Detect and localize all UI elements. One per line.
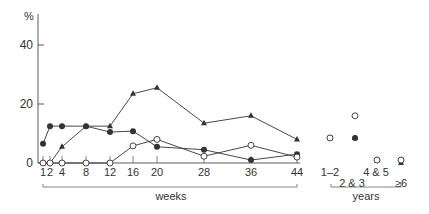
triangle-marker <box>248 112 254 118</box>
filled-circle-line <box>43 126 297 160</box>
x-tick-label: 16 <box>127 166 139 178</box>
open-circle-marker <box>294 154 300 160</box>
filled-circle-marker <box>107 129 113 135</box>
open-circle-years-marker <box>327 135 333 141</box>
filled-circle-marker <box>47 123 53 129</box>
open-circle-marker <box>107 160 113 166</box>
x-tick-label: 28 <box>198 166 210 178</box>
open-circle-marker <box>201 153 207 159</box>
years-points <box>327 113 404 165</box>
filled-circle-marker <box>201 147 207 153</box>
open-circle-marker <box>40 160 46 166</box>
x-tick-label: 12 <box>104 166 116 178</box>
filled-circle-marker <box>154 144 160 150</box>
axis-brackets: weeksyears <box>43 184 401 202</box>
line-chart: %0204012481216202836441–22 & 34 & 5≥6 we… <box>0 0 429 214</box>
open-circle-marker <box>154 136 160 142</box>
x-tick-label: 44 <box>291 166 303 178</box>
y-tick-label: 0 <box>26 156 33 170</box>
filled-circle-marker <box>248 157 254 163</box>
x-tick-label: 1 <box>40 166 46 178</box>
triangle-marker <box>154 84 160 90</box>
open-circle-marker <box>248 142 254 148</box>
open-circle-marker <box>130 143 136 149</box>
x-tick-label: 36 <box>245 166 257 178</box>
axes: %0204012481216202836441–22 & 34 & 5≥6 <box>20 10 407 189</box>
years-category-label: 4 & 5 <box>363 166 389 178</box>
triangle-line <box>43 88 297 163</box>
years-category-label: 1–2 <box>321 166 339 178</box>
open-circle-marker <box>59 160 65 166</box>
series-group <box>40 84 300 166</box>
years-label: years <box>353 190 380 202</box>
open-circle-marker <box>83 160 89 166</box>
open-circle-years-marker <box>352 113 358 119</box>
open-circle-years-marker <box>374 157 380 163</box>
open-circle-marker <box>47 160 53 166</box>
weeks-label: weeks <box>154 190 187 202</box>
y-unit-label: % <box>24 10 34 22</box>
x-tick-label: 2 <box>47 166 53 178</box>
weeks-bracket <box>43 184 297 187</box>
x-tick-label: 20 <box>151 166 163 178</box>
x-tick-label: 8 <box>83 166 89 178</box>
filled-circle-marker <box>40 141 46 147</box>
filled-circle-marker <box>59 123 65 129</box>
y-tick-label: 40 <box>20 38 34 52</box>
filled-circle-marker <box>130 128 136 134</box>
open-circle-years-marker <box>398 157 404 163</box>
x-tick-label: 4 <box>59 166 65 178</box>
y-tick-label: 20 <box>20 97 34 111</box>
triangle-marker <box>59 143 65 149</box>
